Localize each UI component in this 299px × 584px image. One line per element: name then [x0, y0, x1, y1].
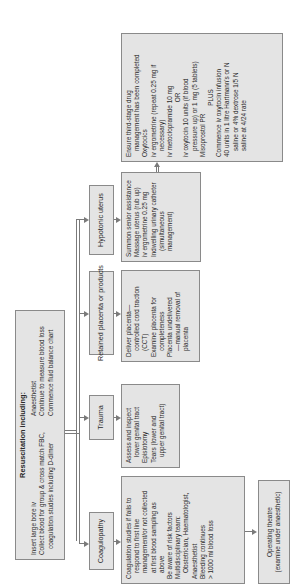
- trauma-detail-box: Assess and inspect lower genital tract E…: [121, 384, 180, 468]
- detail-line: Anaesthetist: [191, 481, 199, 579]
- cause-label: Hypotonic uterus: [97, 193, 105, 247]
- flowchart-rotated: Resuscitation including: Insert large bo…: [0, 0, 299, 584]
- detail-line: lower genital tract: [133, 389, 141, 463]
- arrow-icon: [154, 162, 160, 167]
- detail-line: upper genital tract): [158, 389, 166, 463]
- detail-line: (CCT): [141, 275, 149, 357]
- detail-line: management/or not collected: [141, 481, 149, 579]
- detail-line: Operating theatre: [266, 507, 274, 557]
- detail-line: Episiotomy: [141, 389, 149, 463]
- detail-line: respond to first line: [133, 481, 141, 579]
- detail-line: Examine placenta for: [150, 275, 158, 357]
- oxytocics-box: Ensure third-stage drug management has b…: [121, 33, 283, 162]
- coagulopathy-detail-box: Coagulation studies if fails to respond …: [121, 476, 245, 584]
- resuscitation-line: Continue to measure blood loss: [38, 326, 46, 416]
- resuscitation-line: Commence fluid balance chart: [47, 326, 55, 416]
- connector-line: [76, 219, 84, 220]
- detail-line: Ensure third-stage drug: [125, 38, 133, 157]
- resuscitation-box: Resuscitation including: Insert large bo…: [15, 310, 65, 560]
- resuscitation-line: coagulation studies including D-dimer: [47, 432, 55, 555]
- cause-hypotonic-uterus: Hypotonic uterus: [89, 185, 114, 255]
- operating-theatre-box: Operating theatre (examine under anaesth…: [258, 480, 290, 584]
- detail-line: management): [166, 177, 174, 257]
- detail-line: Oxytocics: [141, 38, 149, 157]
- detail-line: OR: [174, 38, 182, 157]
- detail-line: necessary): [158, 38, 166, 157]
- detail-line: Multidisciplinary team:: [174, 481, 182, 579]
- resuscitation-left-column: Insert large bore iv Collect blood for g…: [30, 432, 55, 555]
- hypotonic-uterus-detail-box: Summon senior assistance Massage uterus …: [121, 172, 201, 262]
- detail-line: Summon senior assistance: [125, 177, 133, 257]
- detail-line: (simultaneous: [158, 177, 166, 257]
- detail-line: Placenta undelivered: [166, 275, 174, 357]
- arrow-icon: [252, 529, 257, 535]
- detail-line: pressure up) or 1 mg (5 tablets): [191, 38, 199, 157]
- detail-line: Assess and inspect: [125, 389, 133, 463]
- detail-line: Commence iv oxytocin infusion: [215, 38, 223, 157]
- resuscitation-line: Anaesthetist: [30, 326, 38, 416]
- detail-line: at first blood sampling as: [150, 481, 158, 579]
- detail-line: Misoprostol PR: [199, 38, 207, 157]
- retained-placenta-detail-box: Deliver placenta— controlled cord tracti…: [121, 270, 200, 362]
- detail-line: iv ergometrine 0.25 mg: [141, 177, 149, 257]
- cause-label: Retained placenta or products: [97, 265, 105, 361]
- resuscitation-right-column: Anaesthetist Continue to measure blood l…: [30, 326, 55, 416]
- resuscitation-line: Collect blood for group & cross match FB…: [38, 432, 46, 555]
- detail-line: Massage uterus (rub up): [133, 177, 141, 257]
- detail-line: > 1000 ml blood loss: [207, 481, 215, 579]
- cause-trauma: Trauma: [89, 395, 114, 440]
- resuscitation-title: Resuscitation including:: [19, 315, 27, 555]
- connector-bus: [79, 219, 80, 544]
- detail-line: iv metoclopramide 10 mg: [166, 38, 174, 157]
- detail-line: PLUS: [207, 38, 215, 157]
- detail-line: placenta: [182, 275, 190, 357]
- detail-line: controlled cord traction: [133, 275, 141, 357]
- detail-line: Deliver placenta—: [125, 275, 133, 357]
- detail-line: 40 units in 1 litre Hartmann's or N: [223, 38, 231, 157]
- detail-line: saline at 4/24 rate: [240, 38, 248, 157]
- detail-line: saline or 4% dextrose 1/5 N: [232, 38, 240, 157]
- detail-line: Bleeding continues: [199, 481, 207, 579]
- cause-coagulopathy: Coagulopathy: [89, 512, 114, 570]
- connector-line: [65, 430, 76, 431]
- detail-line: iv oxytocin 10 units (if blood: [182, 38, 190, 157]
- cause-label: Trauma: [97, 405, 105, 430]
- detail-line: Obstetrician, Haematologist,: [182, 481, 190, 579]
- detail-line: management has been completed: [133, 38, 141, 157]
- detail-line: iv ergometrine (repeat 0.25 mg if: [150, 38, 158, 157]
- detail-line: —manual removal of: [174, 275, 182, 357]
- detail-line: above: [158, 481, 166, 579]
- detail-line: Tears (lower and: [150, 389, 158, 463]
- detail-line: Indwelling urinary catheter: [150, 177, 158, 257]
- cause-label: Coagulopathy: [97, 519, 105, 563]
- detail-line: (examine under anaesthetic): [274, 492, 282, 573]
- cause-retained-placenta: Retained placenta or products: [89, 271, 114, 355]
- detail-line: completeness: [158, 275, 166, 357]
- detail-line: Be aware of risk factors: [166, 481, 174, 579]
- detail-line: Coagulation studies if fails to: [125, 481, 133, 579]
- connector-bus: [76, 219, 77, 541]
- resuscitation-line: Insert large bore iv: [30, 432, 38, 555]
